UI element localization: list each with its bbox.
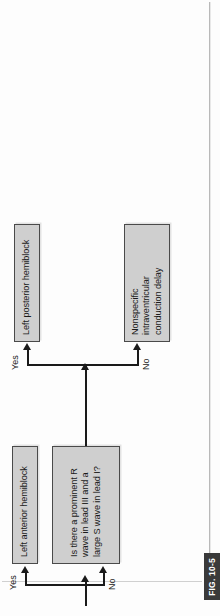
node-decision-question: Is there a prominent R wave in lead III …	[52, 446, 120, 564]
figure-caption-tab: FIG. 10-5	[204, 553, 220, 600]
figure-caption-text: FIG. 10-5	[207, 558, 217, 596]
branch-label-no-top: No	[107, 578, 117, 590]
entry-arrowhead	[81, 575, 89, 582]
figure-area: Yes No Left anterior hemiblock Is there …	[0, 0, 220, 616]
question-out-line	[85, 364, 87, 446]
branch-label-no-bottom: No	[141, 358, 151, 370]
node-left-anterior-hemiblock-label: Left anterior hemiblock	[19, 466, 31, 557]
entry-split-vertical	[25, 584, 105, 586]
node-decision-question-label: Is there a prominent R wave in lead III …	[69, 453, 104, 557]
second-yes-arrowhead	[23, 343, 31, 350]
flowchart: Yes No Left anterior hemiblock Is there …	[12, 10, 208, 606]
node-left-anterior-hemiblock: Left anterior hemiblock	[12, 446, 38, 564]
second-no-arrowhead	[133, 343, 141, 350]
node-nonspecific-conduction-delay-label: Nonspecific intraventricular conduction …	[130, 231, 165, 335]
branch-label-yes-bottom: Yes	[10, 355, 20, 370]
no-branch-line	[103, 573, 105, 586]
node-nonspecific-conduction-delay: Nonspecific intraventricular conduction …	[124, 224, 170, 342]
second-no-line	[137, 350, 139, 366]
no-branch-arrowhead	[99, 566, 107, 573]
yes-branch-arrowhead	[21, 566, 29, 573]
node-left-posterior-hemiblock-label: Left posterior hemiblock	[21, 240, 33, 335]
node-left-posterior-hemiblock: Left posterior hemiblock	[14, 224, 40, 342]
second-yes-line	[27, 350, 29, 366]
branch-label-yes-top: Yes	[8, 575, 18, 590]
question-split-vertical	[27, 364, 139, 366]
yes-branch-line	[25, 573, 27, 586]
